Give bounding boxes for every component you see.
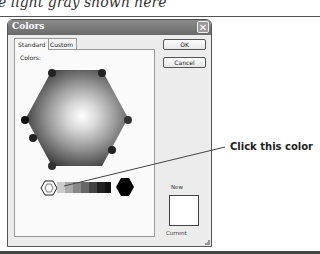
callout-label: Click this color [230, 141, 313, 152]
color-hexagon[interactable] [21, 69, 132, 170]
tab-standard[interactable]: Standard [14, 38, 49, 50]
